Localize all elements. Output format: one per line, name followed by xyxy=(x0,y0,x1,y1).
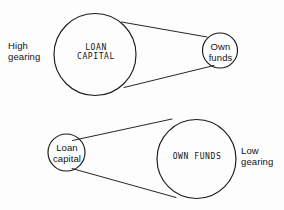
label-own-funds-small-circle: Own funds xyxy=(205,41,236,63)
cone-upper-line-top xyxy=(122,22,208,37)
label-low-gearing: Low gearing xyxy=(241,145,273,167)
label-high-gearing: High gearing xyxy=(8,40,40,62)
label-own-funds-large-circle: OWN FUNDS xyxy=(164,152,230,161)
cone-upper-line-bottom xyxy=(73,119,173,141)
cone-lower-line-bottom xyxy=(72,169,176,198)
cone-lower-line-top xyxy=(124,66,214,88)
label-loan-capital-small-circle: Loan capital xyxy=(49,142,85,164)
gearing-diagram: High gearing LOAN CAPITAL Own funds Loan… xyxy=(0,0,284,210)
diagram-canvas xyxy=(0,0,284,210)
label-loan-capital-large-circle: LOAN CAPITAL xyxy=(65,43,127,62)
